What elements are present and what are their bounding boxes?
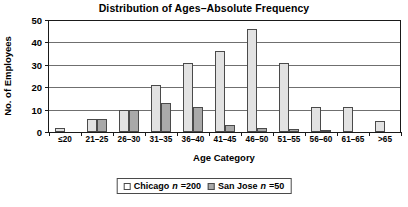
chart-legend: Chicago n =200 San Jose n =50 [117,178,292,194]
x-axis-tick [209,132,210,136]
legend-label-chicago: Chicago [134,181,170,191]
legend-n-symbol-chicago: n [172,181,178,191]
gridline-y [49,42,401,43]
y-axis-title-container: No. of Employees [0,20,14,132]
legend-label-san-jose: San Jose [218,181,258,191]
x-axis-tick [369,132,370,136]
x-axis-title: Age Category [48,152,400,163]
bar-chicago-7 [279,63,289,132]
bar-chicago-1 [87,119,97,132]
x-axis-tick [145,132,146,136]
y-axis-tick-label: 40 [31,37,42,48]
x-axis-tick [337,132,338,136]
bar-san-jose-3 [161,103,171,132]
bar-chicago-0 [55,128,65,132]
bar-chicago-9 [343,107,353,132]
bar-san-jose-6 [257,128,267,132]
y-axis-tick [45,65,49,66]
x-axis-tick-label: 41–45 [214,135,237,144]
legend-item-chicago: Chicago n =200 [124,181,201,191]
y-axis-tick-label: 50 [31,15,42,26]
legend-n-value-san-jose: =50 [269,181,284,191]
y-axis-tick [45,110,49,111]
x-axis-tick-label: 61–65 [342,135,365,144]
bar-chicago-10 [375,121,385,132]
y-axis-tick-label: 0 [37,127,42,138]
plot-top-border [49,20,401,21]
bar-san-jose-5 [225,125,235,132]
bar-san-jose-2 [129,110,139,132]
x-axis-tick-label: 51–55 [278,135,301,144]
chart-title: Distribution of Ages–Absolute Frequency [0,2,408,14]
plot-area: 01020304050≤2021–2526–3031–3536–4041–454… [48,20,401,133]
y-axis-title: No. of Employees [2,36,13,116]
plot-right-border [400,20,401,132]
x-axis-tick [401,132,402,136]
x-axis-tick-label: 26–30 [118,135,141,144]
gridline-y [49,65,401,66]
legend-n-symbol-san-jose: n [261,181,267,191]
legend-swatch-chicago [124,183,131,190]
legend-swatch-san-jose [208,183,215,190]
y-axis-tick [45,87,49,88]
x-axis-tick-label: 46–50 [246,135,269,144]
x-axis-tick [113,132,114,136]
legend-item-san-jose: San Jose n =50 [208,181,284,191]
bar-san-jose-8 [321,130,331,132]
y-axis-tick [45,42,49,43]
bar-chicago-6 [247,29,257,132]
x-axis-tick [241,132,242,136]
chart-figure: Distribution of Ages–Absolute Frequency … [0,0,408,207]
legend-n-value-chicago: =200 [181,181,201,191]
bar-san-jose-7 [289,129,299,132]
x-axis-tick-label: >65 [378,135,392,144]
x-axis-tick [49,132,50,136]
bar-chicago-2 [119,110,129,132]
bar-chicago-3 [151,85,161,132]
y-axis-tick-label: 30 [31,59,42,70]
x-axis-tick-label: 31–35 [150,135,173,144]
bar-chicago-8 [311,107,321,132]
plot-inner: 01020304050≤2021–2526–3031–3536–4041–454… [49,20,401,132]
x-axis-tick-label: 36–40 [182,135,205,144]
bar-san-jose-1 [97,119,107,132]
x-axis-tick [177,132,178,136]
x-axis-tick [273,132,274,136]
x-axis-tick [81,132,82,136]
bar-chicago-4 [183,63,193,132]
x-axis-tick-label: 56–60 [310,135,333,144]
y-axis-tick-label: 20 [31,82,42,93]
y-axis-tick-label: 10 [31,104,42,115]
x-axis-tick-label: 21–25 [86,135,109,144]
bar-chicago-5 [215,51,225,132]
x-axis-tick-label: ≤20 [58,135,72,144]
gridline-y [49,87,401,88]
bar-san-jose-4 [193,107,203,132]
x-axis-tick [305,132,306,136]
